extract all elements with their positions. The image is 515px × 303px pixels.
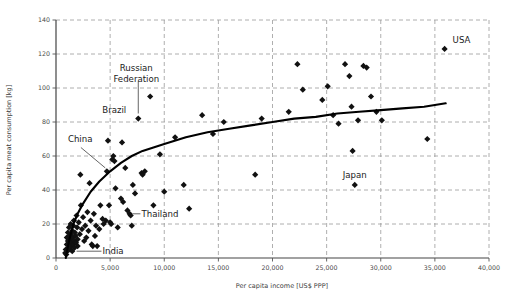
data-point-marker — [350, 148, 356, 154]
y-tick-label: 140 — [38, 16, 50, 23]
data-point-marker — [342, 61, 348, 67]
data-point-marker — [86, 180, 92, 186]
data-point-marker — [130, 182, 136, 188]
annotation-label: Japan — [342, 170, 367, 180]
data-point-marker — [352, 182, 358, 188]
data-point-marker — [132, 190, 138, 196]
data-point-marker — [325, 83, 331, 89]
data-point-marker — [76, 219, 82, 225]
data-point-marker — [92, 233, 98, 239]
trendline-group — [66, 103, 446, 258]
data-point-marker — [80, 214, 86, 220]
x-tick-label: 30,000 — [370, 264, 392, 271]
data-point-marker — [442, 46, 448, 52]
scatter-plot: 02040608010012014005,00010,00015,00020,0… — [0, 0, 515, 303]
data-point-marker — [161, 189, 167, 195]
annotation-label: Brazil — [102, 105, 126, 115]
y-axis-title: Per capita meat consumption [kg] — [5, 85, 13, 196]
data-point-marker — [221, 119, 227, 125]
data-point-marker — [122, 165, 128, 171]
annotation-leader-line — [81, 148, 105, 168]
x-tick-label: 25,000 — [316, 264, 338, 271]
y-tick-label: 0 — [46, 254, 50, 261]
data-point-marker — [97, 202, 103, 208]
data-point-marker — [157, 151, 163, 157]
data-point-marker — [199, 112, 205, 118]
data-point-marker — [84, 209, 90, 215]
y-tick-label: 20 — [42, 220, 50, 227]
y-tick-label: 60 — [42, 152, 50, 159]
data-point-marker — [150, 202, 156, 208]
data-point-marker — [286, 109, 292, 115]
annotation-label: India — [103, 246, 124, 256]
data-point-marker — [424, 136, 430, 142]
data-point-marker — [94, 243, 100, 249]
data-point-marker — [252, 172, 258, 178]
data-point-marker — [147, 93, 153, 99]
annotation-labels-group: USARussianFederationBrazilChinaThailandI… — [68, 35, 471, 256]
chart-container: 02040608010012014005,00010,00015,00020,0… — [0, 0, 515, 303]
data-point-marker — [135, 116, 141, 122]
data-point-marker — [346, 73, 352, 79]
data-point-marker — [77, 172, 83, 178]
x-tick-label: 10,000 — [153, 264, 175, 271]
x-tick-label: 35,000 — [424, 264, 446, 271]
data-point-marker — [115, 224, 121, 230]
annotation-label: Thailand — [141, 209, 179, 219]
data-point-marker — [181, 182, 187, 188]
x-tick-label: 15,000 — [207, 264, 229, 271]
y-tick-label: 120 — [38, 50, 50, 57]
x-tick-label: 0 — [54, 264, 58, 271]
data-point-marker — [112, 185, 118, 191]
data-point-marker — [91, 211, 97, 217]
data-point-marker — [319, 97, 325, 103]
data-point-marker — [300, 87, 306, 93]
x-axis-title: Per capita income [US$ PPP] — [236, 282, 328, 290]
data-point-marker — [379, 117, 385, 123]
x-tick-label: 20,000 — [261, 264, 283, 271]
annotation-label: USA — [453, 35, 471, 45]
annotation-label: Russian — [120, 63, 153, 73]
annotation-label: Federation — [113, 74, 159, 84]
trendline — [66, 103, 446, 258]
x-tick-label: 40,000 — [478, 264, 500, 271]
data-point-marker — [119, 139, 125, 145]
tick-labels-group: 02040608010012014005,00010,00015,00020,0… — [38, 16, 500, 271]
data-point-marker — [348, 104, 354, 110]
data-point-marker — [355, 117, 361, 123]
y-tick-label: 40 — [42, 186, 50, 193]
data-point-marker — [85, 228, 91, 234]
data-point-marker — [186, 206, 192, 212]
x-tick-label: 5,000 — [101, 264, 119, 271]
data-point-marker — [129, 223, 135, 229]
data-point-marker — [368, 93, 374, 99]
data-point-marker — [294, 61, 300, 67]
data-point-marker — [106, 202, 112, 208]
data-point-marker — [88, 218, 94, 224]
data-point-marker — [259, 116, 265, 122]
y-tick-label: 100 — [38, 84, 50, 91]
annotation-label: China — [68, 134, 93, 144]
gridlines-group — [56, 20, 489, 258]
y-tick-label: 80 — [42, 118, 50, 125]
data-point-marker — [335, 121, 341, 127]
